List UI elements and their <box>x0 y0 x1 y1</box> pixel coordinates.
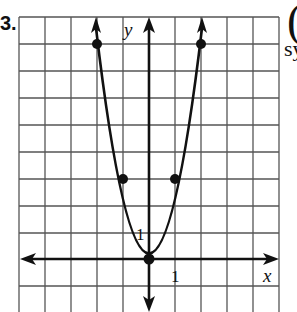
y-axis-label: y <box>122 19 133 40</box>
x-tick-label: 1 <box>171 267 180 286</box>
y-tick-label: 1 <box>136 225 145 244</box>
side-text-fragment: sy <box>284 36 297 62</box>
x-axis-label: x <box>262 265 272 286</box>
parabola-graph: y x 1 1 <box>0 0 297 312</box>
axes <box>20 17 279 312</box>
